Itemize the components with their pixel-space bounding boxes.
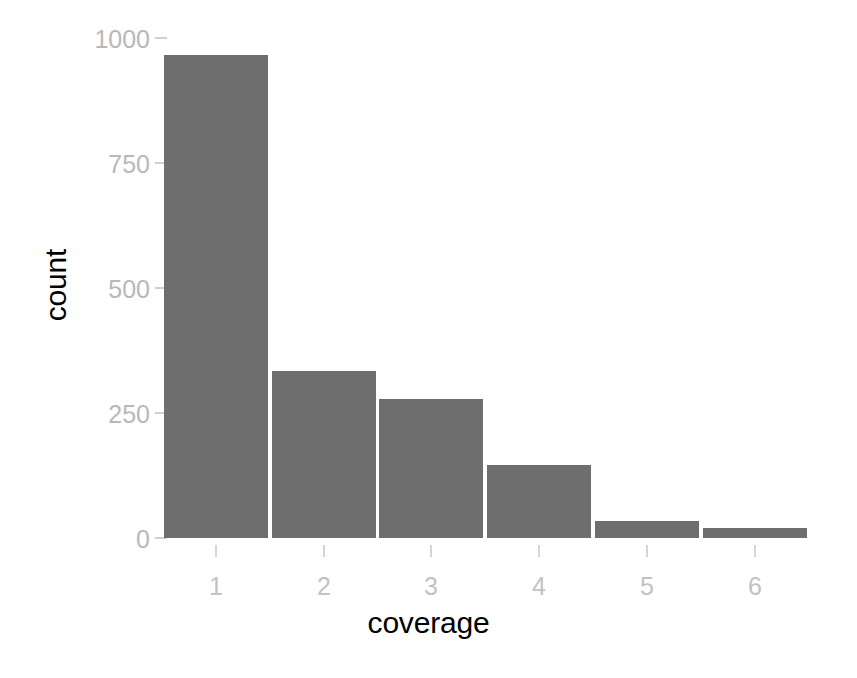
bar <box>164 55 268 538</box>
x-axis-tick-mark <box>430 545 432 557</box>
x-axis-tick-label: 2 <box>294 572 354 601</box>
bar <box>595 521 699 538</box>
x-axis-tick-label: 5 <box>617 572 677 601</box>
bar <box>272 371 376 538</box>
bar <box>379 399 483 538</box>
x-axis-tick-mark <box>646 545 648 557</box>
bar <box>703 528 807 538</box>
x-axis-tick-label: 3 <box>401 572 461 601</box>
x-axis-tick-mark <box>323 545 325 557</box>
x-axis-tick-label: 6 <box>725 572 785 601</box>
x-axis-tick-mark <box>215 545 217 557</box>
bar <box>487 465 591 538</box>
x-axis-tick-label: 4 <box>509 572 569 601</box>
x-axis-tick-mark <box>538 545 540 557</box>
x-axis-tick-mark <box>754 545 756 557</box>
x-axis-tick-label: 1 <box>186 572 246 601</box>
bar-chart: count 1000 750 500 250 0 123456 coverage <box>0 0 857 678</box>
x-axis-title: coverage <box>0 606 857 640</box>
